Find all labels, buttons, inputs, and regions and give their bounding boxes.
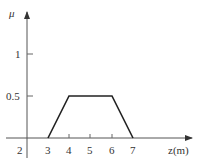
x-tick-label-7: 7 bbox=[130, 144, 136, 156]
x-tick-label-4: 4 bbox=[66, 144, 72, 156]
x-tick-label-3: 3 bbox=[45, 144, 51, 156]
x-tick-label-6: 6 bbox=[109, 144, 115, 156]
membership-chart: μ 1 0.5 2 3 4 5 6 7 z(m) bbox=[0, 0, 199, 160]
y-tick-label-0.5: 0.5 bbox=[6, 90, 20, 102]
x-axis-label: z(m) bbox=[168, 144, 189, 157]
membership-line bbox=[48, 96, 133, 138]
x-tick-label-2: 2 bbox=[17, 144, 23, 156]
x-tick-label-5: 5 bbox=[87, 144, 93, 156]
y-axis-label: μ bbox=[8, 7, 15, 19]
y-tick-label-1: 1 bbox=[15, 48, 21, 60]
